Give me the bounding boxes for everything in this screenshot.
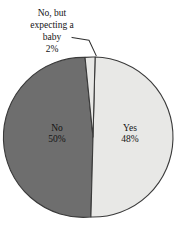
pie-chart-svg (0, 0, 185, 237)
callout-leader-line (72, 37, 96, 55)
pie-slice-yes (91, 57, 173, 217)
pie-chart-figure: No, but expecting a baby 2% No 50% Yes 4… (0, 0, 185, 237)
pie-slice-no (3, 57, 93, 217)
